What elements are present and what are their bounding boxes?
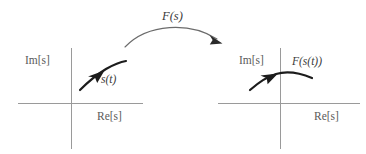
arrowhead-right-down-icon: [210, 35, 223, 45]
right-real-axis-label: Re[s]: [314, 110, 339, 122]
mapping-arc: [125, 27, 217, 47]
mapping-arrow-label: F(s): [161, 9, 183, 23]
mapping-arrow-group: [125, 27, 223, 47]
left-curve-label: s(t): [101, 73, 117, 86]
mapping-diagram: F(s) Im[s] Re[s] s(t) Im[s] Re[s] F(s(t)…: [0, 0, 366, 154]
right-imaginary-axis-label: Im[s]: [239, 54, 264, 66]
left-real-axis-label: Re[s]: [97, 110, 122, 122]
left-imaginary-axis-label: Im[s]: [25, 54, 50, 66]
right-curve-label: F(s(t)): [291, 55, 322, 68]
